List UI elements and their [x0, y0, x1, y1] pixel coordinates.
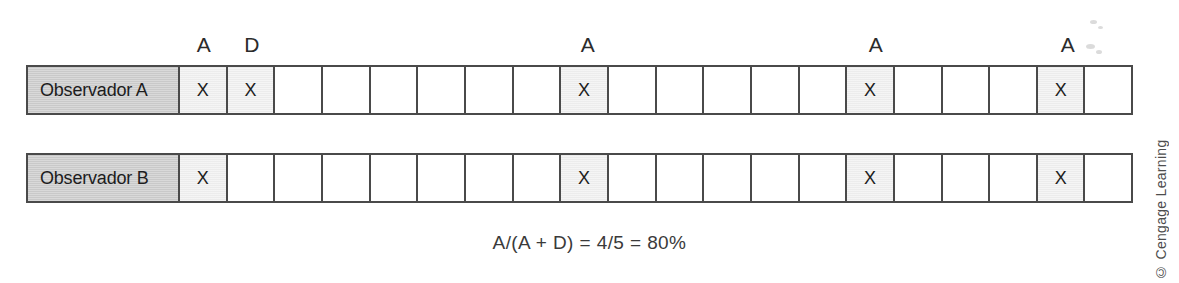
agreement-formula: A/(A + D) = 4/5 = 80% — [0, 232, 1179, 254]
interval-cell — [466, 155, 514, 201]
interval-cell — [275, 155, 323, 201]
interval-cell: X — [847, 155, 895, 201]
interval-cell — [609, 67, 657, 113]
interval-cell — [371, 155, 419, 201]
interval-cell: X — [1038, 155, 1086, 201]
interval-cell — [514, 155, 562, 201]
interval-cell — [323, 67, 371, 113]
interval-cell — [990, 67, 1038, 113]
observer-row-b-cells: X X X X — [180, 155, 1131, 201]
interval-cell — [895, 67, 943, 113]
interval-cell — [418, 155, 466, 201]
interval-cell — [800, 155, 848, 201]
interval-cell: X — [228, 67, 276, 113]
observer-row-a: Observador A X X X X X — [26, 65, 1133, 115]
interval-cell — [609, 155, 657, 201]
observer-row-a-cells: X X X X X — [180, 67, 1131, 113]
scan-speckle — [1098, 26, 1103, 29]
interval-cell — [228, 155, 276, 201]
interval-cell — [704, 67, 752, 113]
interval-cell — [990, 155, 1038, 201]
interval-cell — [514, 67, 562, 113]
interval-cell — [895, 155, 943, 201]
interval-cell — [943, 155, 991, 201]
copyright-credit: © Cengage Learning — [1153, 130, 1175, 280]
interval-cell — [371, 67, 419, 113]
column-header-letter-3: A — [564, 30, 612, 60]
column-header-band: A D A A A — [180, 30, 1140, 64]
interval-cell: X — [561, 155, 609, 201]
interval-cell: X — [1038, 67, 1086, 113]
interval-cell — [1085, 155, 1131, 201]
interval-cell — [275, 67, 323, 113]
interval-cell — [466, 67, 514, 113]
interval-cell — [323, 155, 371, 201]
interval-cell: X — [180, 155, 228, 201]
interval-cell: X — [847, 67, 895, 113]
interval-cell: X — [180, 67, 228, 113]
column-header-letter-2: D — [228, 30, 276, 60]
observer-row-a-label: Observador A — [28, 67, 180, 113]
observer-row-b-label: Observador B — [28, 155, 180, 201]
observer-row-b: Observador B X X X X — [26, 153, 1133, 203]
column-header-letter-4: A — [852, 30, 900, 60]
scan-speckle — [1090, 20, 1097, 24]
interval-cell — [752, 67, 800, 113]
interval-cell — [943, 67, 991, 113]
interval-cell — [800, 67, 848, 113]
interval-cell — [704, 155, 752, 201]
interobserver-agreement-figure: A D A A A Observador A X X X X X — [0, 0, 1179, 283]
interval-cell — [752, 155, 800, 201]
interval-cell — [1085, 67, 1131, 113]
interval-cell: X — [561, 67, 609, 113]
column-header-letter-5: A — [1044, 30, 1092, 60]
interval-cell — [418, 67, 466, 113]
interval-cell — [657, 67, 705, 113]
interval-cell — [657, 155, 705, 201]
column-header-letter-1: A — [180, 30, 228, 60]
